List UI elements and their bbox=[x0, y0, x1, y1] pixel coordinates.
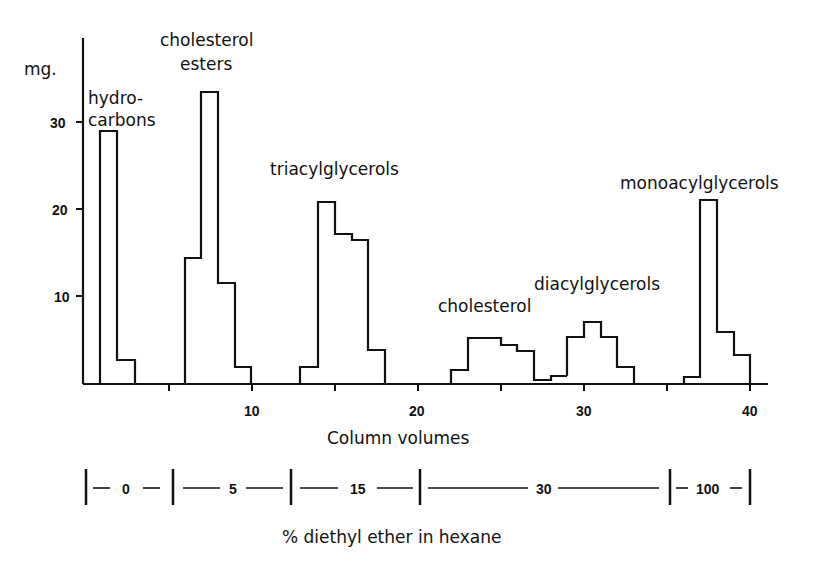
label-monoacylglycerols: monoacylglycerols bbox=[620, 173, 779, 193]
gradient-segment-30: 30 bbox=[536, 481, 552, 497]
peak-triacylglycerols bbox=[300, 202, 385, 384]
x-tick-20: 20 bbox=[409, 403, 425, 419]
gradient-segment-100: 100 bbox=[696, 481, 720, 497]
gradient-segment-0: 0 bbox=[122, 481, 130, 497]
label-cholesterol-esters-2: esters bbox=[180, 54, 232, 74]
gradient-segment-5: 5 bbox=[229, 481, 237, 497]
label-hydrocarbons-2: carbons bbox=[88, 110, 156, 130]
y-tick-30: 30 bbox=[50, 115, 66, 131]
y-tick-20: 20 bbox=[52, 202, 68, 218]
peak-diacylglycerols bbox=[567, 322, 634, 384]
solvent-gradient-bar bbox=[86, 469, 750, 505]
x-tick-10: 10 bbox=[244, 403, 260, 419]
peak-monoacylglycerols bbox=[684, 200, 750, 384]
gradient-title: % diethyl ether in hexane bbox=[282, 527, 501, 547]
y-tick-10: 10 bbox=[54, 289, 70, 305]
x-tick-30: 30 bbox=[576, 403, 592, 419]
x-axis-label: Column volumes bbox=[327, 428, 469, 448]
peak-cholesterol-esters bbox=[185, 92, 251, 384]
chromatography-histogram: 30 20 10 mg. 10 20 30 40 Column volumes … bbox=[0, 0, 813, 573]
label-hydrocarbons-1: hydro- bbox=[88, 88, 143, 108]
label-diacylglycerols: diacylglycerols bbox=[534, 274, 660, 294]
label-cholesterol-esters-1: cholesterol bbox=[160, 30, 253, 50]
label-cholesterol: cholesterol bbox=[438, 296, 531, 316]
label-triacylglycerols: triacylglycerols bbox=[270, 159, 399, 179]
x-tick-40: 40 bbox=[742, 403, 758, 419]
histogram-bars bbox=[100, 92, 750, 384]
gradient-segment-15: 15 bbox=[350, 481, 366, 497]
peak-hydrocarbons bbox=[100, 131, 135, 384]
peak-cholesterol bbox=[451, 338, 567, 384]
y-axis-label: mg. bbox=[24, 59, 57, 79]
